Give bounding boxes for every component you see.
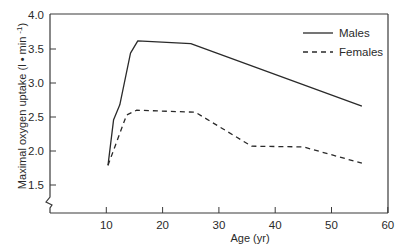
series-line-females [108,110,362,165]
y-axis-ticks: 1.52.02.53.03.54.0 [28,9,56,191]
legend: Males Females [303,27,383,58]
y-tick-label: 1.5 [28,179,44,191]
x-tick-label: 10 [100,219,113,231]
x-tick-label: 30 [213,219,226,231]
legend-label-females: Females [339,46,383,58]
y-axis-title-main: Maximal oxygen uptake (l • min [16,34,28,189]
legend-label-males: Males [339,27,370,39]
y-tick-label: 2.5 [28,111,44,123]
y-tick-label: 4.0 [28,9,44,21]
series-line-males [108,41,362,166]
x-tick-label: 50 [325,219,338,231]
y-axis-with-break [46,14,52,213]
y-tick-label: 3.0 [28,77,44,89]
y-axis-title: Maximal oxygen uptake (l • min -1) [15,23,28,189]
x-tick-label: 60 [381,219,394,231]
legend-item-females: Females [303,46,383,58]
x-axis-ticks: 102030405060 [100,207,394,231]
plot-frame [46,14,388,213]
line-chart: 102030405060 1.52.02.53.03.54.0 Age (yr)… [0,0,406,249]
legend-item-males: Males [303,27,370,39]
x-tick-label: 40 [269,219,282,231]
x-tick-label: 20 [156,219,169,231]
x-axis-title: Age (yr) [230,232,269,244]
y-axis-title-end: ) [16,23,28,27]
y-tick-label: 2.0 [28,145,44,157]
y-tick-label: 3.5 [28,43,44,55]
